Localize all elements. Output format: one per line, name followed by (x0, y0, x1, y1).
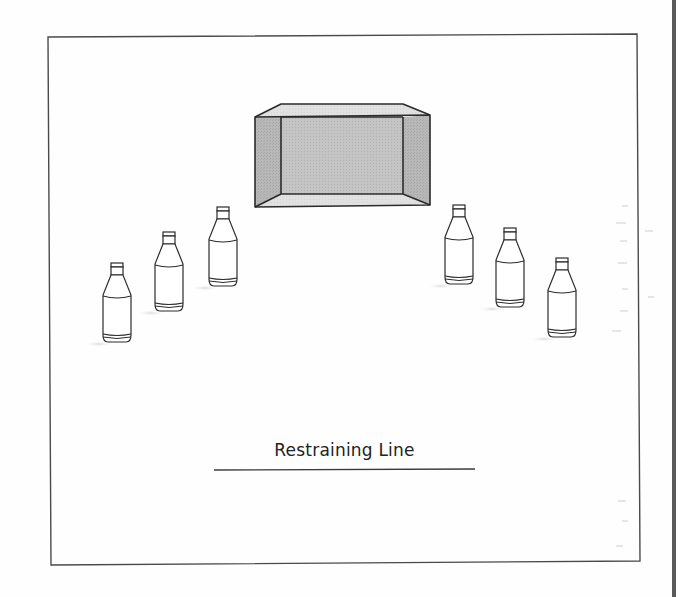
page-binding-edge (672, 0, 676, 597)
bottle-3 (209, 207, 237, 286)
target-box (255, 104, 430, 207)
restraining-line-label: Restraining Line (214, 440, 475, 460)
bottle-1 (103, 263, 131, 342)
bottles-left-group (85, 207, 237, 347)
diagram-canvas (0, 0, 680, 597)
bottle-2 (155, 232, 183, 311)
bottle-4 (445, 205, 473, 284)
bleed-through-marks (612, 205, 654, 547)
restraining-line (214, 469, 475, 470)
bottles-right-group (427, 205, 576, 342)
bottle-6 (548, 258, 576, 337)
bottle-5 (496, 228, 524, 307)
page: Restraining Line (0, 0, 680, 597)
